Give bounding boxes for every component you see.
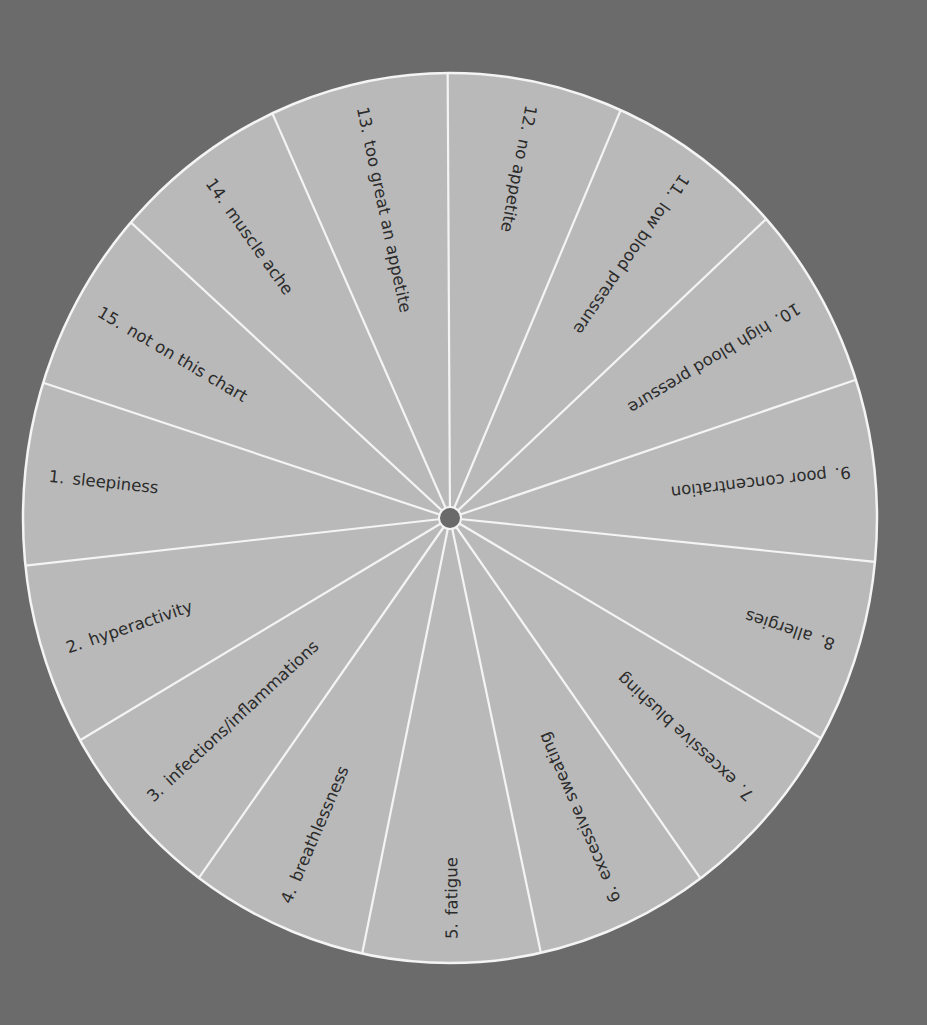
sector-number: 9. <box>834 463 852 484</box>
symptom-wheel: 12.no appetite11.low blood pressure10.hi… <box>0 0 927 1025</box>
symptom-wheel-diagram: 12.no appetite11.low blood pressure10.hi… <box>0 0 927 1025</box>
sector-number: 1. <box>48 466 66 487</box>
sector-number: 5. <box>442 923 461 939</box>
sector-label: 5.fatigue <box>442 857 461 939</box>
sector-text: fatigue <box>442 857 461 915</box>
center-hub <box>439 507 461 529</box>
